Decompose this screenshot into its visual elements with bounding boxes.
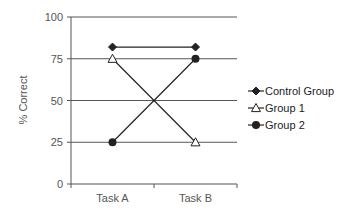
y-tick-label: 0 [57,178,63,190]
legend-label: Group 2 [265,119,305,131]
legend-item: Group 2 [248,119,305,131]
legend-item: Group 1 [248,102,305,114]
data-point [109,43,117,51]
axes [71,17,237,188]
data-point [109,138,117,146]
legend-marker [252,121,260,129]
x-tick-label: Task B [179,192,212,204]
y-tick-label: 75 [51,53,63,65]
line-chart: 0255075100 Task ATask B % Correct Contro… [0,0,343,213]
x-tick-labels: Task ATask B [96,192,212,204]
series-control-group [109,43,200,51]
y-tick-label: 25 [51,136,63,148]
legend-item: Control Group [248,85,334,97]
grid-lines [67,17,237,184]
y-axis-label: % Correct [17,76,29,125]
legend: Control GroupGroup 1Group 2 [248,85,334,131]
legend-label: Control Group [265,85,334,97]
legend-label: Group 1 [265,102,305,114]
data-point [192,43,200,51]
x-tick-label: Task A [96,192,129,204]
y-tick-label: 100 [45,11,63,23]
y-tick-labels: 0255075100 [45,11,63,190]
data-point [192,55,200,63]
legend-marker [252,87,260,95]
y-tick-label: 50 [51,95,63,107]
